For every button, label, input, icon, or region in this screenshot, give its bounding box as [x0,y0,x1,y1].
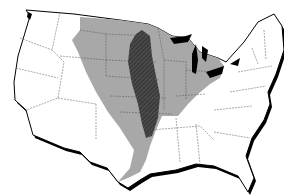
map-svg [0,0,284,195]
us-map [0,0,284,195]
